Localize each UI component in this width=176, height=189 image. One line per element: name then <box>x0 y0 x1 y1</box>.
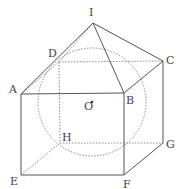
edge-bc <box>124 61 163 93</box>
edge-ic <box>93 23 163 61</box>
label-e: E <box>10 176 18 187</box>
edge-ab <box>21 93 124 94</box>
cube-pyramid-diagram: I D C A B O H G E F <box>0 0 176 189</box>
label-f: F <box>123 179 131 189</box>
label-g: G <box>166 139 175 150</box>
edge-fg <box>124 143 163 175</box>
edge-eh <box>21 143 60 175</box>
diagram-canvas <box>0 0 176 189</box>
edge-dh <box>59 62 60 143</box>
label-o: O <box>84 101 93 112</box>
label-b: B <box>126 95 134 106</box>
hidden-edges <box>21 23 163 175</box>
edge-ad <box>21 62 59 94</box>
label-a: A <box>9 84 17 95</box>
edge-ib <box>93 23 124 93</box>
label-i: I <box>89 7 93 18</box>
label-c: C <box>166 55 174 66</box>
edge-di <box>59 23 93 62</box>
label-h: H <box>62 132 72 143</box>
visible-edges <box>21 23 163 175</box>
label-d: D <box>48 48 57 59</box>
edge-dc <box>59 61 163 62</box>
edge-ai <box>21 23 93 94</box>
